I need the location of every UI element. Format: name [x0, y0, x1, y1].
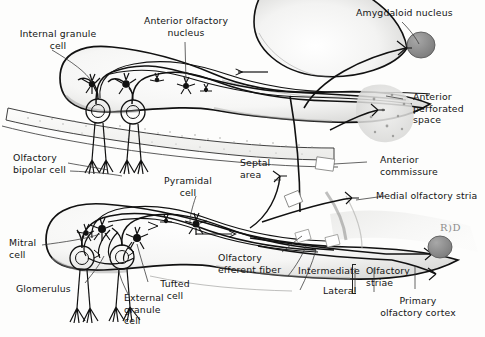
striae-brace-bottom-tick	[352, 293, 356, 294]
anterior-commissure	[284, 157, 334, 207]
label-anterior-olfactory-nucleus: Anterior olfactory nucleus	[131, 15, 241, 38]
striae-brace-top-tick	[352, 264, 356, 265]
primary-olfactory-cortex	[428, 236, 452, 258]
label-external-granule-cell: External granule cell	[124, 292, 164, 327]
label-amygdaloid-nucleus: Amygdaloid nucleus	[356, 7, 453, 19]
olfactory-system-diagram: Internal granule cell Anterior olfactory…	[0, 0, 485, 337]
label-anterior-commissure: Anterior commissure	[380, 154, 438, 177]
label-olfactory-striae: Olfactory striae	[366, 265, 410, 288]
label-glomerulus: Glomerulus	[16, 283, 71, 295]
striae-brace	[352, 264, 353, 294]
artist-signature: R)D	[440, 222, 461, 233]
label-medial-olfactory-stria: Medial olfactory stria	[376, 190, 477, 202]
label-mitral-cell: Mitral cell	[9, 237, 36, 260]
label-intermediate-stria: Intermediate	[298, 265, 360, 277]
label-anterior-perforated-space: Anterior perforated space	[413, 91, 464, 126]
label-olfactory-bipolar-cell: Olfactory bipolar cell	[13, 152, 66, 175]
label-olfactory-efferent-fiber: Olfactory efferent fiber	[218, 252, 281, 275]
label-primary-olfactory-cortex: Primary olfactory cortex	[355, 295, 481, 318]
label-septal-area: Septal area	[240, 157, 270, 180]
label-internal-granule-cell: Internal granule cell	[2, 28, 114, 51]
label-pyramidal-cell: Pyramidal cell	[150, 175, 226, 198]
amygdaloid-nucleus	[407, 32, 435, 58]
